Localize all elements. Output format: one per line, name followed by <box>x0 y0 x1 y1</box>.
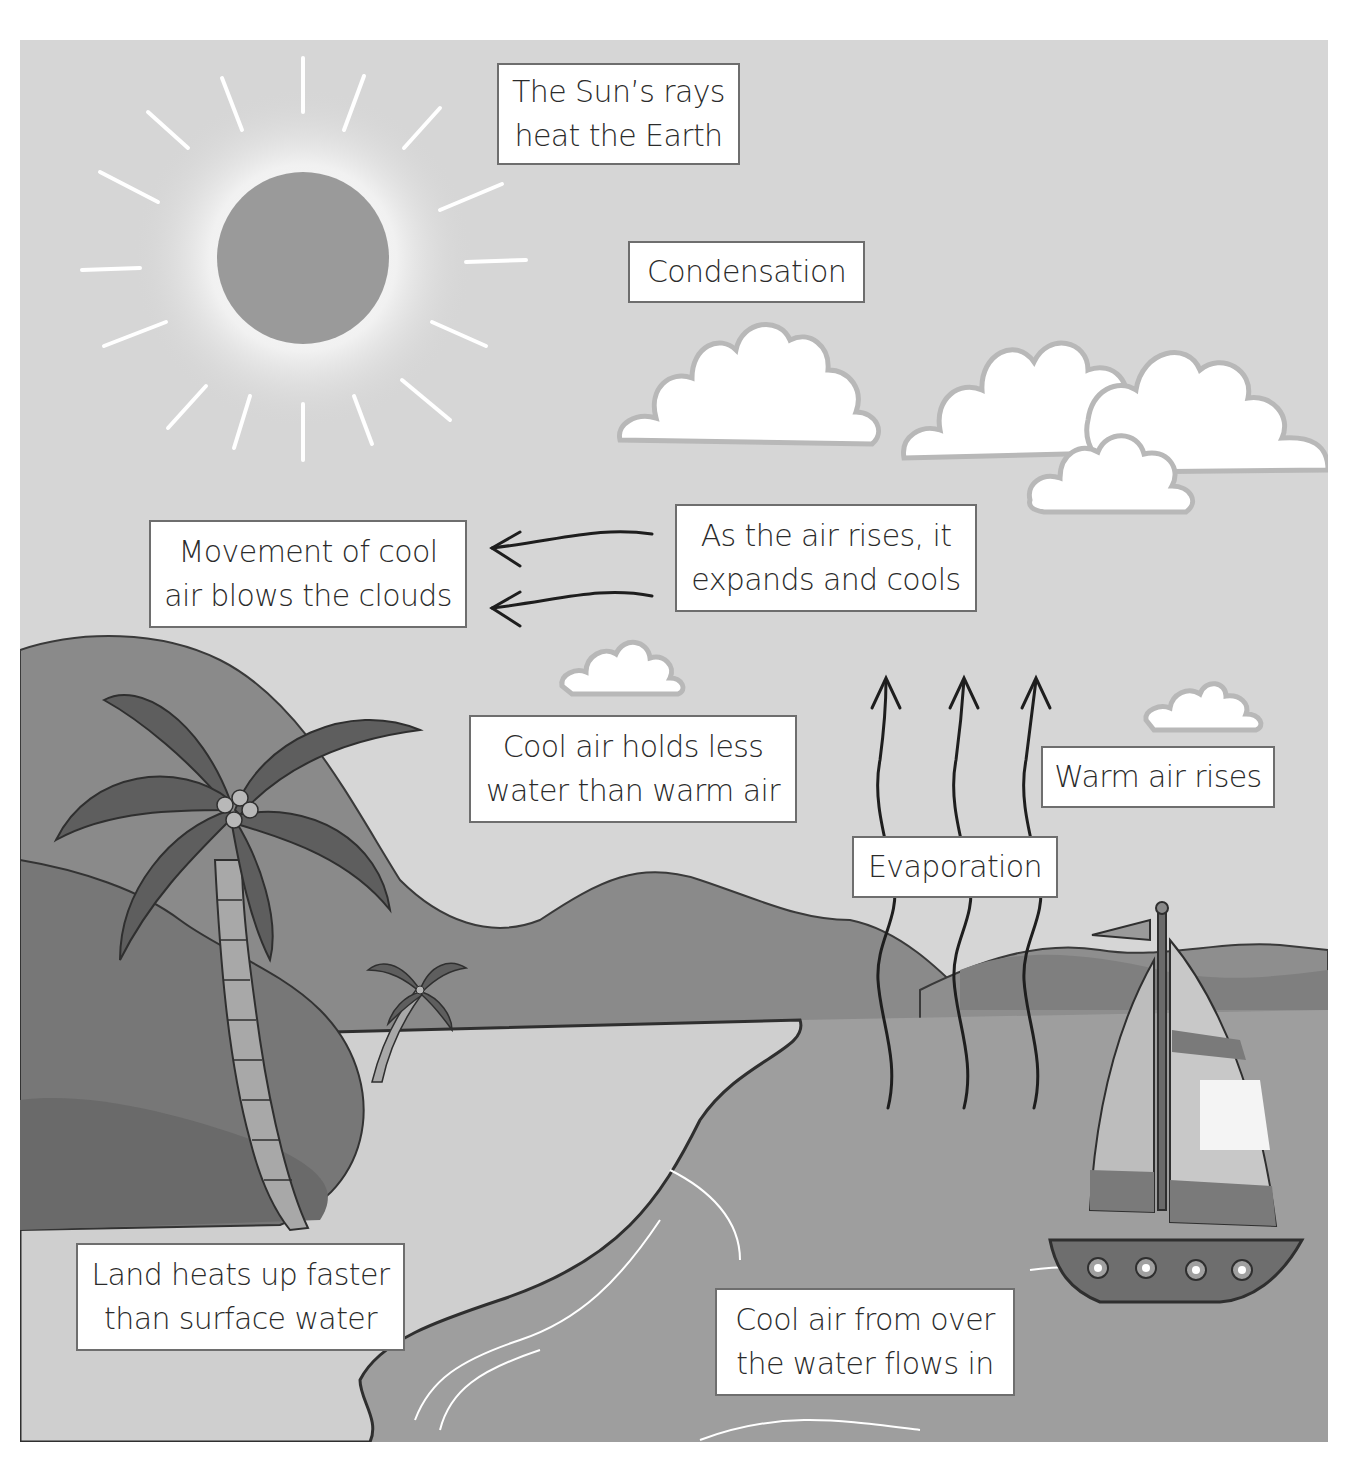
label-air-rises-expands: As the air rises, it expands and cools <box>675 504 977 612</box>
label-land-heats-up: Land heats up faster than surface water <box>76 1243 405 1351</box>
label-movement-cool-air: Movement of cool air blows the clouds <box>149 520 467 628</box>
label-cool-air-holds-less: Cool air holds less water than warm air <box>469 715 797 823</box>
label-evaporation: Evaporation <box>852 836 1058 898</box>
label-warm-air-rises: Warm air rises <box>1041 746 1275 808</box>
diagram-canvas: The Sun’s rays heat the Earth Condensati… <box>20 40 1328 1442</box>
label-cool-air-flows-in: Cool air from over the water flows in <box>715 1288 1015 1396</box>
label-condensation: Condensation <box>628 241 865 303</box>
label-sun-rays: The Sun’s rays heat the Earth <box>497 63 740 165</box>
